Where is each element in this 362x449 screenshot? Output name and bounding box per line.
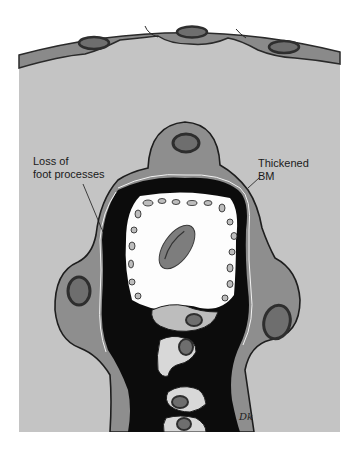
podocyte-nucleus-top <box>173 134 199 152</box>
label-loss-of-foot-processes: Loss of foot processes <box>33 155 105 181</box>
label-thickened-bm: Thickened BM <box>258 157 309 183</box>
epithelial-nucleus <box>177 27 207 38</box>
epithelial-nucleus <box>79 37 109 49</box>
endothelial-nucleus <box>186 314 202 326</box>
podocyte-nucleus-left <box>68 277 90 305</box>
glomerular-capillary-illustration <box>0 0 362 449</box>
epithelial-nucleus <box>269 41 299 53</box>
artist-signature: Dk <box>239 411 253 422</box>
